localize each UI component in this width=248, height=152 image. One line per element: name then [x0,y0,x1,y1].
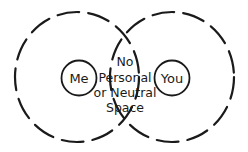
personal-space-diagram: Me You No Personal or Neutral Space [0,0,248,152]
center-text-line-3: or Neutral [94,85,157,100]
center-text-line-4: Space [106,100,144,115]
me-label: Me [69,71,88,86]
center-text-line-1: No [117,54,134,69]
you-label: You [160,71,183,86]
center-text-line-2: Personal [98,70,151,85]
